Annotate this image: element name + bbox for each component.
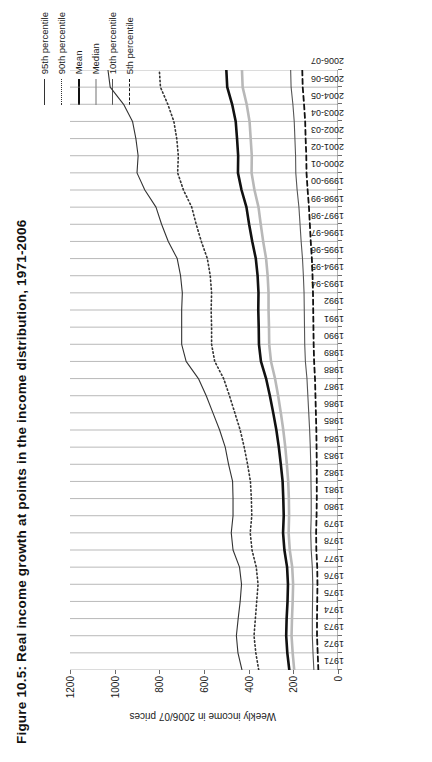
x-tick-label: 1985 — [324, 417, 344, 427]
x-tick-mark — [338, 395, 342, 396]
series-line — [159, 70, 258, 670]
x-tick-label: 2002-03 — [311, 125, 344, 135]
x-tick-mark — [338, 326, 342, 327]
x-tick-mark — [338, 172, 342, 173]
x-tick-label: 1980 — [324, 502, 344, 512]
series-line — [242, 70, 294, 670]
y-tick-mark — [159, 670, 160, 674]
x-tick-label: 2005-06 — [311, 74, 344, 84]
x-tick-label: 1971 — [324, 657, 344, 667]
x-tick-mark — [338, 566, 342, 567]
x-tick-label: 1998-99 — [311, 194, 344, 204]
y-tick-label: 1000 — [109, 676, 120, 706]
x-tick-label: 1981 — [324, 485, 344, 495]
x-tick-label: 1987 — [324, 382, 344, 392]
legend-item: 95th percentile — [38, 12, 51, 105]
x-tick-label: 1978 — [324, 537, 344, 547]
x-tick-label: 1994-95 — [311, 262, 344, 272]
x-tick-label: 1984 — [324, 434, 344, 444]
x-tick-mark — [338, 412, 342, 413]
y-tick-mark — [70, 670, 71, 674]
x-tick-label: 1986 — [324, 399, 344, 409]
y-tick-label: 0 — [333, 676, 344, 706]
y-tick-label: 800 — [154, 676, 165, 706]
x-tick-label: 2004-05 — [311, 91, 344, 101]
x-tick-label: 1989 — [324, 348, 344, 358]
x-tick-mark — [338, 120, 342, 121]
x-tick-label: 1983 — [324, 451, 344, 461]
y-tick-mark — [249, 670, 250, 674]
x-tick-label: 1990 — [324, 331, 344, 341]
x-tick-mark — [338, 532, 342, 533]
x-tick-mark — [338, 103, 342, 104]
x-tick-label: 1972 — [324, 639, 344, 649]
x-tick-mark — [338, 86, 342, 87]
x-tick-mark — [338, 206, 342, 207]
x-tick-mark — [338, 189, 342, 190]
x-tick-label: 1979 — [324, 519, 344, 529]
x-tick-mark — [338, 258, 342, 259]
legend-label: 95th percentile — [40, 12, 50, 74]
x-tick-mark — [338, 429, 342, 430]
x-tick-mark — [338, 583, 342, 584]
y-tick-label: 600 — [199, 676, 210, 706]
figure: Figure 10.5: Real income growth at point… — [0, 0, 432, 762]
plot-area — [70, 70, 338, 670]
x-tick-label: 1996-97 — [311, 228, 344, 238]
legend-swatch-icon — [61, 79, 62, 105]
x-tick-mark — [338, 463, 342, 464]
series-line — [226, 70, 289, 670]
x-tick-label: 1995-96 — [311, 245, 344, 255]
x-tick-label: 2003-04 — [311, 108, 344, 118]
x-tick-mark — [338, 618, 342, 619]
x-tick-mark — [338, 223, 342, 224]
x-tick-mark — [338, 360, 342, 361]
x-tick-mark — [338, 275, 342, 276]
x-tick-label: 1997-98 — [311, 211, 344, 221]
legend-item: 90th percentile — [55, 12, 68, 105]
y-tick-mark — [204, 670, 205, 674]
y-axis-label: Weekly income in 2006/07 prices — [129, 711, 276, 722]
x-tick-label: 1974 — [324, 605, 344, 615]
x-tick-label: 2000-01 — [311, 159, 344, 169]
x-tick-label: 1999-00 — [311, 177, 344, 187]
legend-label: 90th percentile — [57, 12, 67, 74]
x-tick-label: 1992 — [324, 297, 344, 307]
figure-title: Figure 10.5: Real income growth at point… — [14, 220, 29, 744]
x-tick-label: 1973 — [324, 622, 344, 632]
x-tick-mark — [338, 378, 342, 379]
x-tick-mark — [338, 446, 342, 447]
series-line — [108, 70, 242, 670]
x-tick-mark — [338, 669, 342, 670]
x-tick-label: 1977 — [324, 554, 344, 564]
x-tick-label: 1982 — [324, 468, 344, 478]
x-tick-label: 1976 — [324, 571, 344, 581]
x-tick-mark — [338, 155, 342, 156]
x-tick-label: 1991 — [324, 314, 344, 324]
y-tick-mark — [293, 670, 294, 674]
x-tick-mark — [338, 292, 342, 293]
legend-label: 10th percentile — [108, 12, 118, 74]
x-tick-mark — [338, 549, 342, 550]
y-tick-label: 1200 — [65, 676, 76, 706]
rotated-figure-wrapper: Figure 10.5: Real income growth at point… — [0, 0, 432, 762]
legend-swatch-icon — [44, 79, 45, 105]
x-tick-mark — [338, 635, 342, 636]
chart-svg — [70, 70, 338, 670]
x-tick-mark — [338, 69, 342, 70]
x-tick-label: 1988 — [324, 365, 344, 375]
x-tick-mark — [338, 343, 342, 344]
x-tick-mark — [338, 138, 342, 139]
x-tick-label: 1975 — [324, 588, 344, 598]
legend-label: 5th percentile — [125, 17, 135, 74]
x-tick-mark — [338, 240, 342, 241]
x-tick-mark — [338, 600, 342, 601]
y-tick-label: 400 — [243, 676, 254, 706]
x-tick-label: 1993-94 — [311, 279, 344, 289]
x-tick-mark — [338, 309, 342, 310]
x-tick-label: 2001-02 — [311, 142, 344, 152]
y-tick-mark — [338, 670, 339, 674]
y-tick-mark — [115, 670, 116, 674]
x-tick-mark — [338, 480, 342, 481]
x-tick-mark — [338, 498, 342, 499]
